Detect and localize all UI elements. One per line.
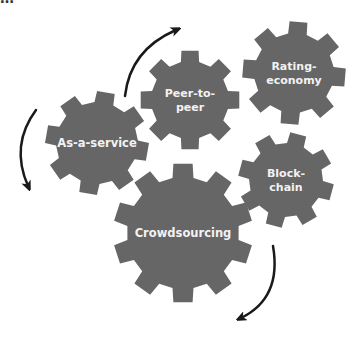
gear-label: Rating- <box>271 60 316 73</box>
gear-rating-economy: Rating-economy <box>242 21 346 125</box>
gear-label: Crowdsourcing <box>135 226 232 240</box>
gear-icon <box>141 51 240 150</box>
gears-layer: As-a-servicePeer-to-peerRating-economyBl… <box>45 21 346 302</box>
gear-icon <box>242 21 346 125</box>
gear-label: As-a-service <box>57 136 137 150</box>
gear-as-a-service: As-a-service <box>45 91 149 195</box>
gear-label: Block- <box>267 167 305 180</box>
gear-crowdsourcing: Crowdsourcing <box>114 164 252 303</box>
gear-label: peer <box>176 101 205 114</box>
gear-label: economy <box>266 74 322 87</box>
gear-peer-to-peer: Peer-to-peer <box>141 51 240 150</box>
gear-icon <box>238 132 334 228</box>
gear-block-chain: Block-chain <box>238 132 334 228</box>
gear-label: Peer-to- <box>165 87 215 100</box>
gear-label: chain <box>269 181 302 194</box>
gears-diagram: As-a-servicePeer-to-peerRating-economyBl… <box>0 0 354 341</box>
arrow-left-icon <box>21 110 36 186</box>
